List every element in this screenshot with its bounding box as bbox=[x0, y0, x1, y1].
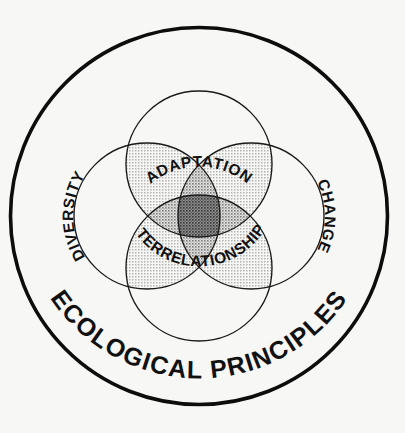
ecological-principles-diagram: ADAPTATION CHANGE INTERRELATIONSHIPS DIV… bbox=[0, 0, 405, 433]
venn-diagram-svg: ADAPTATION CHANGE INTERRELATIONSHIPS DIV… bbox=[0, 0, 405, 433]
